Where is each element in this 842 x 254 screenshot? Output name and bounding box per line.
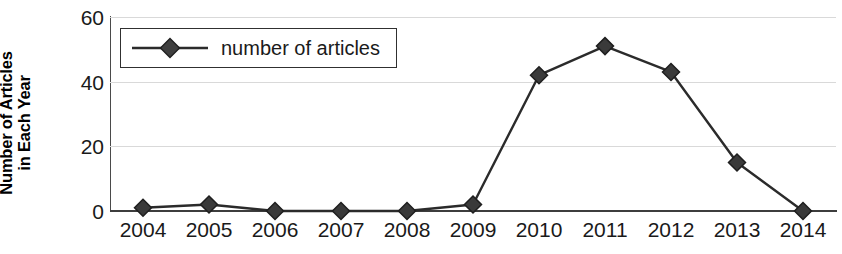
x-tick-label: 2008 (370, 218, 444, 242)
data-point-marker (795, 203, 812, 220)
y-tick-label: 60 (62, 7, 104, 28)
data-point-marker (201, 196, 218, 213)
legend-label: number of articles (221, 37, 380, 60)
data-point-marker (729, 154, 746, 171)
legend-marker-diamond-icon (130, 36, 210, 60)
x-tick-label: 2005 (172, 218, 246, 242)
x-tick-label: 2011 (568, 218, 642, 242)
y-axis-title-line-2: in Each Year (16, 75, 34, 170)
x-tick-label: 2010 (502, 218, 576, 242)
series-line (143, 46, 803, 211)
data-point-marker (597, 38, 614, 55)
x-tick-label: 2004 (106, 218, 180, 242)
data-point-marker (399, 203, 416, 220)
x-tick-label: 2007 (304, 218, 378, 242)
chart-legend: number of articles (120, 28, 397, 68)
data-point-marker (135, 199, 152, 216)
y-tick-label: 0 (62, 201, 104, 222)
x-axis-tick-labels: 2004200520062007200820092010201120122013… (110, 218, 837, 250)
data-point-marker (333, 203, 350, 220)
data-point-marker (663, 63, 680, 80)
y-axis-title: Number of Articles in Each Year (0, 13, 42, 233)
y-axis-tick-labels: 0204060 (58, 0, 104, 254)
data-point-marker (465, 196, 482, 213)
data-point-marker (531, 67, 548, 84)
x-tick-label: 2013 (700, 218, 774, 242)
y-axis-title-line-1: Number of Articles (0, 51, 16, 194)
x-tick-label: 2014 (766, 218, 840, 242)
line-chart: Number of Articles in Each Year 0204060 … (0, 0, 842, 254)
y-tick-label: 40 (62, 72, 104, 93)
x-tick-label: 2012 (634, 218, 708, 242)
data-point-marker (267, 203, 284, 220)
y-tick-label: 20 (62, 136, 104, 157)
x-tick-label: 2006 (238, 218, 312, 242)
x-tick-label: 2009 (436, 218, 510, 242)
